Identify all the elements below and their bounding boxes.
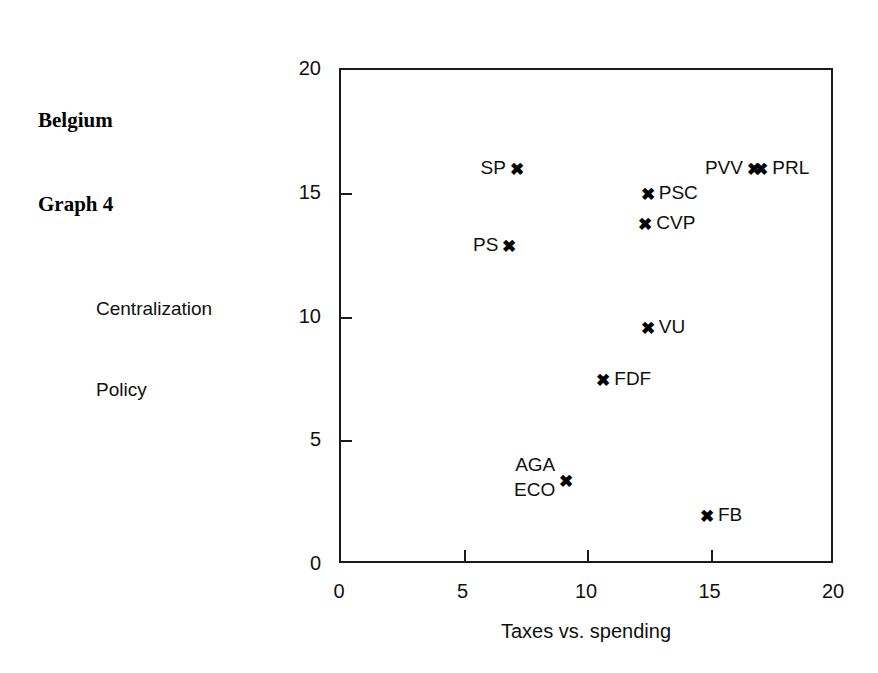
data-point-label-line: AGA	[514, 452, 555, 477]
data-point-label-line: FB	[718, 504, 742, 526]
chart-page: Belgium Graph 4 Centralization Policy Ta…	[0, 0, 878, 673]
figure-title-line-2: Graph 4	[38, 190, 113, 218]
y-axis-tick	[341, 440, 352, 442]
figure-title-line-1: Belgium	[38, 106, 113, 134]
data-point-label: PS	[473, 234, 498, 256]
x-axis-tick	[587, 550, 589, 561]
data-point-label-line: ECO	[514, 477, 555, 502]
x-axis-tick	[464, 550, 466, 561]
y-axis-tick-label: 15	[275, 182, 321, 202]
x-axis-tick-label: 5	[440, 581, 486, 601]
data-point-marker: ✖	[641, 319, 655, 336]
x-axis-tick-label: 20	[810, 581, 856, 601]
data-point-label: PVV	[705, 157, 743, 179]
data-point-label-line: PRL	[772, 157, 809, 179]
x-axis-label: Taxes vs. spending	[339, 620, 833, 643]
y-axis-tick-label: 5	[275, 429, 321, 449]
data-point-label-line: PS	[473, 234, 498, 256]
data-point-label: CVP	[656, 212, 695, 234]
data-point-label-line: VU	[659, 316, 685, 338]
data-point-label: AGAECO	[514, 452, 555, 502]
data-point-marker: ✖	[502, 238, 516, 255]
x-axis-tick-label: 0	[316, 581, 362, 601]
data-point-label-line: PVV	[705, 157, 743, 179]
y-axis-tick	[341, 193, 352, 195]
data-point-label: FDF	[614, 368, 651, 390]
y-axis-label-line-2: Policy	[96, 376, 212, 403]
data-point-label: VU	[659, 316, 685, 338]
data-point-marker: ✖	[700, 507, 714, 524]
y-axis-tick-label: 0	[275, 553, 321, 573]
x-axis-tick-label: 10	[563, 581, 609, 601]
data-point-label-line: CVP	[656, 212, 695, 234]
data-point-label: PSC	[659, 182, 698, 204]
data-point-label: SP	[480, 157, 505, 179]
data-point-label: FB	[718, 504, 742, 526]
data-point-label-line: SP	[480, 157, 505, 179]
plot-area	[339, 68, 833, 563]
data-point-marker: ✖	[638, 215, 652, 232]
data-point-marker: ✖	[596, 371, 610, 388]
data-point-label-line: PSC	[659, 182, 698, 204]
data-point-label: PRL	[772, 157, 809, 179]
data-point-marker: ✖	[559, 473, 573, 490]
x-axis-tick-label: 15	[687, 581, 733, 601]
y-axis-tick	[341, 317, 352, 319]
y-axis-label-line-1: Centralization	[96, 295, 212, 322]
y-axis-tick-label: 10	[275, 306, 321, 326]
y-axis-tick-label: 20	[275, 58, 321, 78]
data-point-marker: ✖	[641, 186, 655, 203]
y-axis-label: Centralization Policy	[96, 241, 212, 457]
data-point-marker: ✖	[510, 161, 524, 178]
data-point-label-line: FDF	[614, 368, 651, 390]
data-point-marker: ✖	[754, 161, 768, 178]
x-axis-tick	[711, 550, 713, 561]
